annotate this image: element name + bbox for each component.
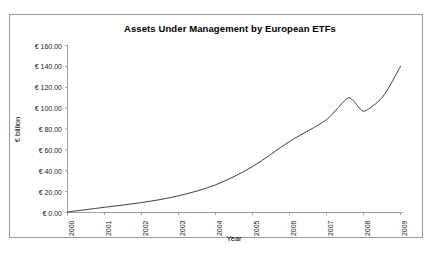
y-tick-label: € 80.00	[24, 126, 62, 133]
data-series-group	[68, 66, 401, 212]
x-tick-label: 2000	[68, 220, 75, 255]
y-tick-label: € 160.00	[24, 42, 62, 49]
x-tick-label: 2008	[364, 220, 371, 255]
x-tick-label: 2005	[253, 220, 260, 255]
y-tick-label: € 0.00	[24, 209, 62, 216]
x-tick-label: 2009	[401, 220, 408, 255]
x-tick-label: 2003	[179, 220, 186, 255]
data-line	[68, 66, 401, 212]
axes-group	[65, 45, 404, 215]
chart-figure: Assets Under Management by European ETFs…	[0, 0, 436, 255]
y-tick-label: € 40.00	[24, 167, 62, 174]
y-tick-label: € 120.00	[24, 84, 62, 91]
y-tick-label: € 100.00	[24, 105, 62, 112]
x-tick-label: 2004	[216, 220, 223, 255]
y-tick-label: € 140.00	[24, 63, 62, 70]
x-tick-label: 2007	[327, 220, 334, 255]
x-tick-label: 2006	[290, 220, 297, 255]
y-tick-label: € 20.00	[24, 188, 62, 195]
y-tick-label: € 60.00	[24, 146, 62, 153]
x-tick-label: 2002	[142, 220, 149, 255]
plot-area	[0, 0, 436, 255]
x-tick-label: 2001	[105, 220, 112, 255]
